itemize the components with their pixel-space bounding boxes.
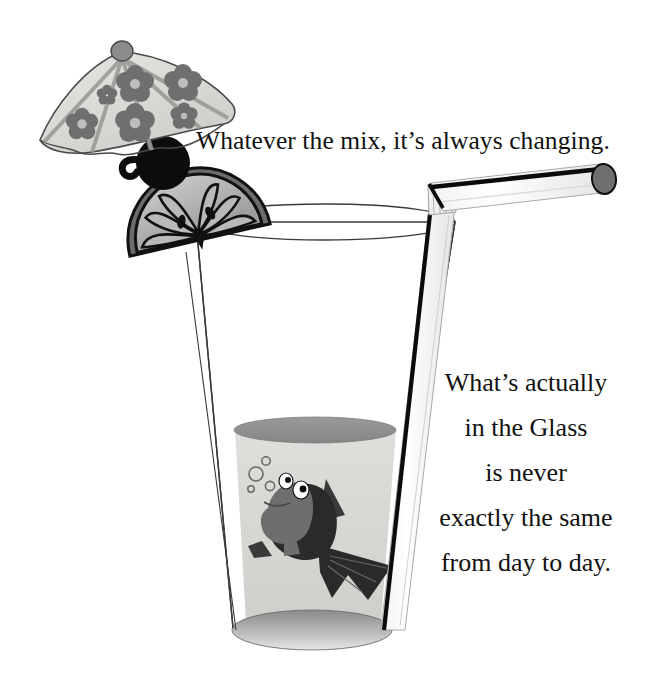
glass-base xyxy=(232,610,392,650)
umbrella-knob xyxy=(111,41,133,61)
fish-pupil-right xyxy=(300,486,307,493)
caption-line-5: from day to day. xyxy=(404,540,648,585)
cherry-body xyxy=(136,136,190,190)
caption-line-4: exactly the same xyxy=(404,495,648,540)
caption-line-1: What’s actually xyxy=(404,360,648,405)
caption-line-3: is never xyxy=(404,450,648,495)
illustration-canvas: Whatever the mix, it’s always changing. … xyxy=(0,0,662,677)
caption-block: What’s actually in the Glass is never ex… xyxy=(404,360,648,585)
headline-text: Whatever the mix, it’s always changing. xyxy=(196,128,610,154)
caption-line-2: in the Glass xyxy=(404,405,648,450)
fish-pupil-left xyxy=(285,477,291,483)
